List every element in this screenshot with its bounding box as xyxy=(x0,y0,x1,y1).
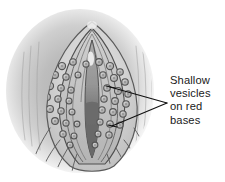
callout-line-3: on red xyxy=(170,100,225,113)
callout-line-2: vesicles xyxy=(170,87,225,100)
callout-line-4: bases xyxy=(170,114,225,127)
callout-label: Shallow vesicles on red bases xyxy=(170,74,225,127)
apex-highlight xyxy=(87,21,97,29)
clinical-figure: Shallow vesicles on red bases xyxy=(0,0,225,182)
callout-line-1: Shallow xyxy=(170,74,225,87)
